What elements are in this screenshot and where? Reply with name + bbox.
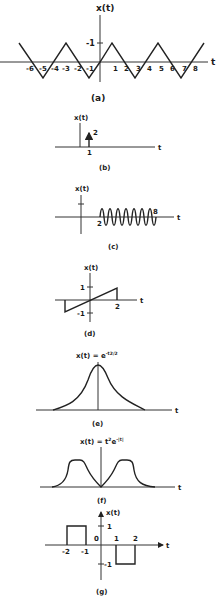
panel-a: x(t) t -1 -6 -5 -4 -3 -2 -1 1 2 3 4 5 6 … — [0, 3, 216, 103]
panel-g-ylabel: x(t) — [106, 509, 120, 517]
svg-text:4: 4 — [147, 65, 152, 73]
panel-e-signal — [53, 365, 145, 410]
panel-b-caption: (b) — [99, 164, 110, 172]
panel-e-caption: (e) — [92, 420, 103, 428]
svg-text:1: 1 — [113, 65, 118, 73]
panel-c: x(t) t 2 8 (c) — [55, 185, 181, 251]
panel-g-ytick-neg-label: -1 — [104, 561, 112, 569]
panel-d-xtick-label: 2 — [115, 303, 120, 311]
panel-f-xlabel: t — [178, 484, 182, 492]
panel-c-signal — [100, 209, 156, 226]
panel-d-ylabel: x(t) — [84, 264, 98, 272]
panel-a-caption: (a) — [91, 93, 105, 103]
svg-text:7: 7 — [182, 65, 187, 73]
panel-d-caption: (d) — [84, 330, 95, 338]
panel-e: x(t) = e-t2/2 t (e) — [36, 351, 179, 428]
panel-g-negative-pulse — [116, 545, 135, 564]
panel-g: x(t) t 1 -1 -2 -1 0 1 2 (g) — [45, 509, 170, 596]
panel-b-xlabel: t — [158, 144, 162, 152]
svg-text:-3: -3 — [62, 65, 70, 73]
panel-a-ylabel: x(t) — [96, 3, 114, 13]
svg-text:3: 3 — [136, 65, 141, 73]
panel-d-ytick-pos-label: 1 — [80, 284, 85, 292]
panel-a-xticks: -6 -5 -4 -3 -2 -1 1 2 3 4 5 6 7 8 — [26, 65, 198, 73]
svg-text:0: 0 — [94, 535, 99, 543]
panel-f: x(t) = t2e-|t| t (f) — [40, 437, 182, 505]
panel-c-ylabel: x(t) — [75, 185, 89, 193]
panel-a-xlabel: t — [211, 57, 216, 67]
svg-text:-6: -6 — [26, 65, 34, 73]
panel-b-impulse-at: 1 — [87, 149, 92, 157]
panel-c-xlabel: t — [177, 214, 181, 222]
svg-text:8: 8 — [193, 65, 198, 73]
panel-f-signal — [52, 460, 155, 487]
svg-text:5: 5 — [159, 65, 164, 73]
panel-b-impulse-area: 2 — [93, 129, 98, 137]
panel-b-ylabel: x(t) — [74, 114, 88, 122]
panel-g-ytick-pos-label: 1 — [107, 523, 112, 531]
panel-g-caption: (g) — [96, 588, 107, 596]
panel-a-ytick-label: -1 — [86, 39, 95, 48]
panel-e-title: x(t) = e-t2/2 — [76, 351, 118, 360]
panel-b: x(t) t 2 1 (b) — [55, 114, 162, 172]
panel-c-caption: (c) — [108, 243, 119, 251]
panel-g-positive-pulse — [67, 526, 86, 545]
panel-c-end-label: 8 — [153, 208, 158, 216]
svg-text:-1: -1 — [86, 65, 94, 73]
panel-c-start-label: 2 — [97, 220, 102, 228]
svg-text:-1: -1 — [81, 548, 89, 556]
svg-text:2: 2 — [133, 535, 138, 543]
signal-figure: x(t) t -1 -6 -5 -4 -3 -2 -1 1 2 3 4 5 6 … — [0, 0, 217, 603]
svg-text:2: 2 — [124, 65, 129, 73]
panel-d: x(t) t 1 -1 2 (d) — [55, 264, 144, 338]
svg-text:-2: -2 — [74, 65, 82, 73]
svg-text:-4: -4 — [51, 65, 59, 73]
svg-text:6: 6 — [170, 65, 175, 73]
panel-f-title: x(t) = t2e-|t| — [80, 437, 124, 446]
panel-e-xlabel: t — [175, 407, 179, 415]
svg-text:-5: -5 — [39, 65, 47, 73]
panel-d-xlabel: t — [140, 297, 144, 305]
panel-f-caption: (f) — [97, 497, 106, 505]
panel-d-ytick-neg-label: -1 — [77, 310, 85, 318]
svg-text:1: 1 — [114, 535, 119, 543]
svg-text:-2: -2 — [62, 548, 70, 556]
panel-g-xlabel: t — [166, 542, 170, 550]
